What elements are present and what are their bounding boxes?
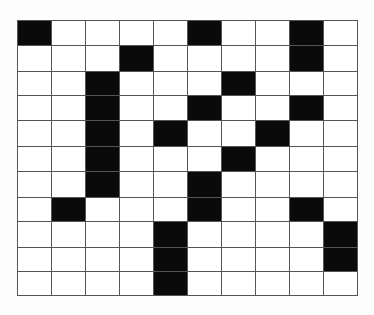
white-cell[interactable] — [323, 197, 357, 221]
white-cell[interactable] — [51, 20, 85, 45]
white-cell[interactable] — [17, 146, 51, 171]
white-cell[interactable] — [51, 171, 85, 197]
white-cell[interactable] — [51, 45, 85, 71]
white-cell[interactable] — [255, 45, 289, 71]
black-cell — [17, 20, 51, 45]
white-cell[interactable] — [323, 171, 357, 197]
white-cell[interactable] — [17, 247, 51, 271]
black-cell — [51, 197, 85, 221]
white-cell[interactable] — [289, 71, 323, 95]
white-cell[interactable] — [187, 221, 221, 247]
white-cell[interactable] — [323, 271, 357, 295]
white-cell[interactable] — [119, 146, 153, 171]
black-cell — [85, 95, 119, 120]
white-cell[interactable] — [187, 146, 221, 171]
white-cell[interactable] — [255, 20, 289, 45]
white-cell[interactable] — [187, 71, 221, 95]
white-cell[interactable] — [51, 120, 85, 146]
white-cell[interactable] — [187, 247, 221, 271]
white-cell[interactable] — [51, 146, 85, 171]
white-cell[interactable] — [221, 95, 255, 120]
white-cell[interactable] — [221, 171, 255, 197]
black-cell — [153, 221, 187, 247]
white-cell[interactable] — [119, 197, 153, 221]
white-cell[interactable] — [119, 271, 153, 295]
black-cell — [153, 247, 187, 271]
white-cell[interactable] — [221, 45, 255, 71]
white-cell[interactable] — [153, 197, 187, 221]
white-cell[interactable] — [17, 197, 51, 221]
white-cell[interactable] — [153, 45, 187, 71]
white-cell[interactable] — [255, 95, 289, 120]
white-cell[interactable] — [289, 120, 323, 146]
white-cell[interactable] — [17, 45, 51, 71]
white-cell[interactable] — [85, 271, 119, 295]
white-cell[interactable] — [221, 247, 255, 271]
black-cell — [85, 146, 119, 171]
white-cell[interactable] — [289, 247, 323, 271]
white-cell[interactable] — [289, 146, 323, 171]
white-cell[interactable] — [187, 120, 221, 146]
black-cell — [221, 71, 255, 95]
white-cell[interactable] — [221, 20, 255, 45]
white-cell[interactable] — [85, 45, 119, 71]
white-cell[interactable] — [119, 71, 153, 95]
white-cell[interactable] — [119, 221, 153, 247]
white-cell[interactable] — [17, 71, 51, 95]
white-cell[interactable] — [85, 221, 119, 247]
white-cell[interactable] — [153, 146, 187, 171]
crossword-grid — [17, 20, 358, 296]
white-cell[interactable] — [51, 95, 85, 120]
white-cell[interactable] — [255, 221, 289, 247]
white-cell[interactable] — [17, 171, 51, 197]
white-cell[interactable] — [153, 171, 187, 197]
white-cell[interactable] — [119, 95, 153, 120]
black-cell — [187, 197, 221, 221]
white-cell[interactable] — [153, 95, 187, 120]
white-cell[interactable] — [255, 171, 289, 197]
white-cell[interactable] — [85, 197, 119, 221]
white-cell[interactable] — [51, 221, 85, 247]
white-cell[interactable] — [187, 271, 221, 295]
white-cell[interactable] — [323, 45, 357, 71]
white-cell[interactable] — [255, 146, 289, 171]
white-cell[interactable] — [289, 271, 323, 295]
white-cell[interactable] — [221, 271, 255, 295]
white-cell[interactable] — [221, 120, 255, 146]
white-cell[interactable] — [119, 247, 153, 271]
black-cell — [187, 20, 221, 45]
white-cell[interactable] — [153, 71, 187, 95]
white-cell[interactable] — [323, 120, 357, 146]
white-cell[interactable] — [153, 20, 187, 45]
white-cell[interactable] — [187, 45, 221, 71]
white-cell[interactable] — [289, 171, 323, 197]
black-cell — [85, 171, 119, 197]
white-cell[interactable] — [255, 271, 289, 295]
white-cell[interactable] — [255, 197, 289, 221]
white-cell[interactable] — [323, 71, 357, 95]
white-cell[interactable] — [17, 120, 51, 146]
white-cell[interactable] — [255, 71, 289, 95]
white-cell[interactable] — [323, 95, 357, 120]
white-cell[interactable] — [221, 221, 255, 247]
white-cell[interactable] — [289, 221, 323, 247]
white-cell[interactable] — [119, 120, 153, 146]
black-cell — [153, 271, 187, 295]
black-cell — [289, 197, 323, 221]
black-cell — [323, 221, 357, 247]
black-cell — [187, 95, 221, 120]
white-cell[interactable] — [17, 271, 51, 295]
white-cell[interactable] — [51, 71, 85, 95]
white-cell[interactable] — [221, 197, 255, 221]
white-cell[interactable] — [85, 20, 119, 45]
white-cell[interactable] — [17, 95, 51, 120]
white-cell[interactable] — [85, 247, 119, 271]
white-cell[interactable] — [119, 171, 153, 197]
white-cell[interactable] — [51, 247, 85, 271]
white-cell[interactable] — [255, 247, 289, 271]
white-cell[interactable] — [17, 221, 51, 247]
white-cell[interactable] — [119, 20, 153, 45]
white-cell[interactable] — [51, 271, 85, 295]
white-cell[interactable] — [323, 20, 357, 45]
white-cell[interactable] — [323, 146, 357, 171]
